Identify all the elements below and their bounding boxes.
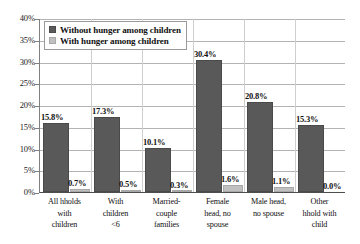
- bar-value-label-without-hunger: 10.1%: [143, 138, 165, 147]
- bar-with-hunger: [274, 187, 294, 192]
- bar-value-label-without-hunger: 15.3%: [296, 115, 318, 124]
- legend-label-without-hunger: Without hunger among children: [60, 25, 181, 35]
- legend-label-with-hunger: With hunger among children: [60, 36, 169, 46]
- bar-without-hunger: [145, 148, 171, 192]
- x-axis-category-label: Other hhold with child: [290, 196, 349, 231]
- category-separator: [295, 19, 296, 192]
- bar-value-label-with-hunger: 0.3%: [170, 181, 188, 190]
- bar-value-label-with-hunger: 1.6%: [221, 175, 239, 184]
- bar-without-hunger: [298, 125, 324, 192]
- bar-value-label-with-hunger: 1.1%: [272, 177, 290, 186]
- bar-without-hunger: [94, 117, 120, 192]
- bar-chart: 0%5%10%15%20%25%30%35%40% 15.8%0.7%17.3%…: [0, 0, 360, 244]
- y-axis-tick-label: 30%: [0, 58, 35, 67]
- bar-value-label-without-hunger: 17.3%: [92, 107, 114, 116]
- bar-with-hunger: [223, 185, 243, 192]
- bar-with-hunger: [172, 190, 192, 192]
- bar-without-hunger: [196, 60, 222, 192]
- bar-value-label-with-hunger: 0.0%: [323, 182, 341, 191]
- legend-item-without-hunger: Without hunger among children: [49, 24, 181, 35]
- bar-with-hunger: [121, 190, 141, 192]
- bar-value-label-without-hunger: 30.4%: [194, 50, 216, 59]
- y-axis-tick-label: 10%: [0, 145, 35, 154]
- legend-swatch-light-icon: [49, 37, 56, 44]
- bar-value-label-with-hunger: 0.5%: [119, 180, 137, 189]
- y-axis-tick-label: 0%: [0, 188, 35, 197]
- chart-legend: Without hunger among children With hunge…: [44, 21, 187, 50]
- bar-with-hunger: [70, 189, 90, 192]
- y-axis-tick-label: 40%: [0, 14, 35, 23]
- y-axis-tick-label: 15%: [0, 123, 35, 132]
- bar-value-label-without-hunger: 20.8%: [245, 92, 267, 101]
- y-axis-tick-label: 25%: [0, 79, 35, 88]
- legend-swatch-dark-icon: [49, 26, 56, 33]
- bar-value-label-without-hunger: 15.8%: [41, 113, 63, 122]
- category-separator: [193, 19, 194, 192]
- y-axis-tick-label: 35%: [0, 36, 35, 45]
- bar-without-hunger: [247, 102, 273, 192]
- bar-without-hunger: [43, 123, 69, 192]
- bar-value-label-with-hunger: 0.7%: [68, 179, 86, 188]
- legend-item-with-hunger: With hunger among children: [49, 35, 181, 46]
- y-axis-tick-label: 20%: [0, 101, 35, 110]
- y-axis-tick-mark: [35, 193, 39, 194]
- y-axis-tick-label: 5%: [0, 166, 35, 175]
- category-separator: [244, 19, 245, 192]
